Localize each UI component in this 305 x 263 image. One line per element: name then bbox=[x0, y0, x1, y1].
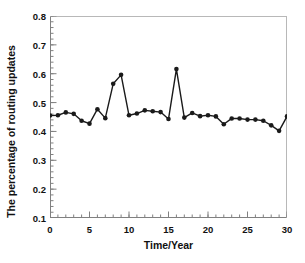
data-point bbox=[64, 110, 69, 115]
data-point bbox=[143, 108, 148, 113]
data-point bbox=[119, 73, 124, 78]
data-point bbox=[103, 116, 108, 121]
x-tick-label: 30 bbox=[282, 224, 293, 235]
chart-canvas bbox=[50, 16, 287, 218]
data-point bbox=[277, 129, 282, 134]
y-tick-label: 0.6 bbox=[33, 68, 46, 79]
data-point bbox=[285, 114, 287, 119]
data-point bbox=[222, 122, 227, 127]
y-tick-label: 0.2 bbox=[33, 184, 46, 195]
y-tick-label: 0.3 bbox=[33, 155, 46, 166]
data-point bbox=[182, 115, 187, 120]
data-point bbox=[198, 114, 203, 119]
data-point bbox=[174, 67, 179, 72]
data-point bbox=[229, 116, 234, 121]
data-point bbox=[111, 82, 116, 87]
x-tick-label: 5 bbox=[87, 224, 92, 235]
data-point bbox=[261, 118, 266, 123]
y-tick-label: 0.8 bbox=[33, 11, 46, 22]
data-point bbox=[135, 111, 140, 116]
data-point bbox=[269, 123, 274, 128]
x-tick-label: 25 bbox=[242, 224, 253, 235]
data-point bbox=[214, 114, 219, 119]
data-line bbox=[50, 69, 287, 131]
y-tick-label: 0.1 bbox=[33, 213, 46, 224]
data-point bbox=[56, 113, 61, 118]
x-tick-label: 0 bbox=[47, 224, 52, 235]
data-point bbox=[166, 117, 171, 122]
x-axis-label: Time/Year bbox=[50, 239, 287, 251]
x-tick-label: 15 bbox=[163, 224, 174, 235]
data-point bbox=[71, 112, 76, 117]
data-point bbox=[237, 116, 242, 121]
chart-figure: The percentage of routing updates 0.10.2… bbox=[0, 0, 305, 263]
x-tick-label: 20 bbox=[203, 224, 214, 235]
y-tick-label: 0.5 bbox=[33, 97, 46, 108]
data-point bbox=[79, 118, 84, 123]
data-point bbox=[190, 111, 195, 116]
data-point bbox=[158, 110, 163, 115]
x-tick-label: 10 bbox=[124, 224, 135, 235]
data-point bbox=[253, 117, 258, 122]
data-point bbox=[127, 113, 132, 118]
y-tick-label: 0.4 bbox=[33, 126, 46, 137]
y-tick-label: 0.7 bbox=[33, 39, 46, 50]
data-point bbox=[206, 113, 211, 118]
data-point bbox=[245, 117, 250, 122]
plot-area: 0.10.20.30.40.50.60.70.8051015202530 bbox=[50, 16, 287, 218]
data-point bbox=[95, 107, 100, 112]
data-point bbox=[150, 109, 155, 114]
y-axis-label: The percentage of routing updates bbox=[0, 0, 22, 263]
data-point bbox=[87, 121, 92, 126]
